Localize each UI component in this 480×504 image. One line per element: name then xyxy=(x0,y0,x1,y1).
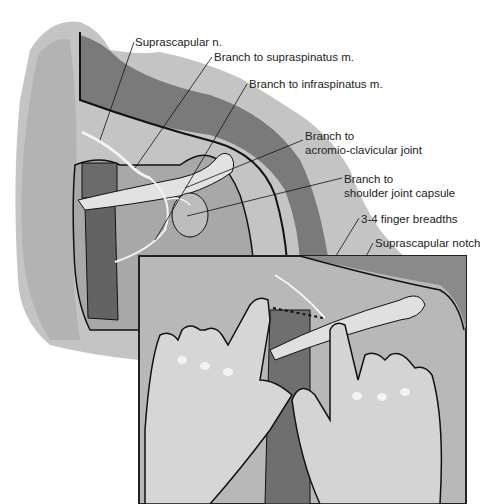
label-finger-breadths: 3-4 finger breadths xyxy=(361,212,458,226)
label-branch-ac-joint: Branch to acromio-clavicular joint xyxy=(305,129,422,157)
label-line-2: acromio-clavicular joint xyxy=(305,143,422,157)
label-line-2: shoulder joint capsule xyxy=(344,186,455,200)
label-line-1: Branch to xyxy=(305,129,422,143)
label-branch-shoulder-capsule: Branch to shoulder joint capsule xyxy=(344,172,455,200)
anatomy-illustration xyxy=(0,0,480,504)
infraspinatus-muscle xyxy=(85,205,118,320)
palpation-inset xyxy=(139,256,466,504)
label-branch-supraspinatus: Branch to supraspinatus m. xyxy=(214,50,354,64)
label-line-1: Branch to xyxy=(344,172,455,186)
label-suprascapular-notch: Suprascapular notch xyxy=(375,236,480,250)
label-branch-infraspinatus: Branch to infraspinatus m. xyxy=(249,77,383,91)
label-suprascapular-n: Suprascapular n. xyxy=(135,35,222,49)
